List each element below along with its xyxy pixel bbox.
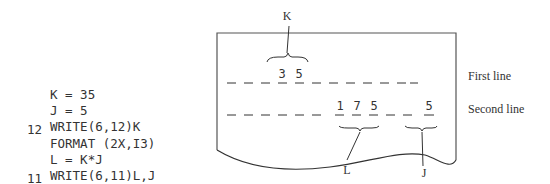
paper-outline — [217, 33, 456, 160]
variable-label-j: J — [422, 166, 427, 180]
leader-line-l — [347, 132, 360, 160]
brace-l — [339, 126, 379, 131]
digit: 5 — [370, 99, 377, 113]
variable-label-l: L — [343, 163, 350, 177]
digit: 7 — [353, 99, 360, 113]
leader-line-j — [422, 132, 423, 166]
digit: 5 — [425, 99, 432, 113]
digit: 1 — [336, 99, 343, 113]
variable-label-k: K — [283, 9, 292, 23]
leader-line-k — [287, 26, 289, 53]
digit: 3 — [278, 67, 285, 81]
paper-torn-edge — [217, 150, 456, 169]
digit: 5 — [295, 67, 302, 81]
printout-diagram: K 3 5 First line 1 7 5 5 Secon — [0, 0, 550, 184]
brace-j — [405, 126, 437, 131]
brace-k — [267, 53, 308, 62]
second-line-label: Second line — [468, 102, 524, 116]
first-line-label: First line — [468, 69, 511, 83]
